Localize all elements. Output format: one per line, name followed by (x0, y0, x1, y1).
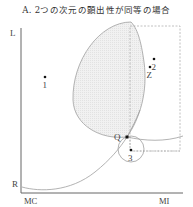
point-label-2: 2 (152, 62, 157, 72)
point-2 (153, 58, 156, 61)
axis-label-r: R (12, 179, 18, 189)
point-q (126, 136, 129, 139)
diagram-canvas: L R MC MI 1 2 Z Q 3 (0, 0, 193, 207)
point-3 (130, 149, 133, 152)
axis-label-l: L (10, 28, 16, 38)
point-1 (44, 76, 47, 79)
point-label-3: 3 (128, 153, 133, 163)
point-label-1: 1 (43, 80, 48, 90)
axis-label-mi: MI (159, 196, 170, 206)
shaded-ellipse-region (73, 22, 145, 137)
point-label-q: Q (114, 132, 121, 142)
axis-label-mc: MC (24, 196, 38, 206)
point-label-z: Z (147, 70, 153, 80)
